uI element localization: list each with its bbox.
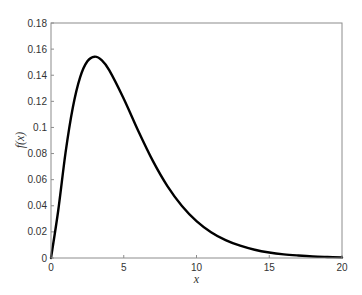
x-axis-label: x bbox=[193, 272, 200, 286]
y-tick-label: 0.08 bbox=[28, 148, 48, 159]
y-axis-ticks: 00.020.040.060.080.10.120.140.160.18 bbox=[28, 18, 54, 264]
chart: 00.020.040.060.080.10.120.140.160.18 051… bbox=[0, 0, 362, 295]
y-tick-label: 0.02 bbox=[28, 226, 48, 237]
x-tick-label: 15 bbox=[264, 262, 276, 273]
x-tick-label: 0 bbox=[48, 262, 54, 273]
y-tick-label: 0.1 bbox=[33, 122, 47, 133]
y-tick-label: 0.18 bbox=[28, 18, 48, 29]
y-tick-label: 0.12 bbox=[28, 96, 48, 107]
y-axis-label: f(x) bbox=[13, 132, 27, 149]
y-tick-label: 0.16 bbox=[28, 44, 48, 55]
y-tick-label: 0.04 bbox=[28, 200, 48, 211]
x-tick-label: 20 bbox=[336, 262, 348, 273]
y-tick-label: 0 bbox=[41, 253, 47, 264]
y-tick-label: 0.14 bbox=[28, 70, 48, 81]
y-tick-label: 0.06 bbox=[28, 174, 48, 185]
plot-area bbox=[51, 23, 342, 258]
x-tick-label: 5 bbox=[121, 262, 127, 273]
